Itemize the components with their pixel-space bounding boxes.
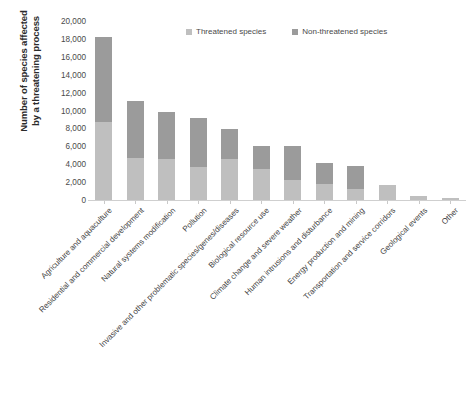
bar-group[interactable] [316, 163, 333, 201]
bar-segment-non-threatened[interactable] [221, 129, 238, 159]
bar-segment-threatened[interactable] [127, 158, 144, 201]
y-tick-label: 8,000 [40, 125, 86, 133]
bar-group[interactable] [190, 118, 207, 201]
legend-item[interactable]: Threatened species [186, 27, 266, 36]
bar-segment-threatened[interactable] [284, 180, 301, 201]
bar-segment-threatened[interactable] [221, 159, 238, 201]
y-tick-label: 0 [40, 197, 86, 205]
bar-segment-threatened[interactable] [253, 169, 270, 201]
bar-group[interactable] [158, 112, 175, 201]
y-tick-label: 10,000 [40, 107, 86, 115]
y-tick-label: 6,000 [40, 143, 86, 151]
bar-group[interactable] [221, 129, 238, 201]
x-category-label: Energy production and mining [285, 206, 366, 287]
x-category-label: Other [440, 206, 460, 226]
bar-segment-non-threatened[interactable] [347, 166, 364, 189]
bar-segment-threatened[interactable] [379, 185, 396, 201]
legend-swatch-icon [186, 29, 192, 35]
bar-group[interactable] [379, 185, 396, 201]
x-axis-tick [104, 201, 105, 204]
y-axis-title-line-1: Number of species affected [18, 10, 30, 131]
bar-segment-threatened[interactable] [95, 122, 112, 201]
legend-item[interactable]: Non-threatened species [292, 27, 387, 36]
x-axis-tick [198, 201, 199, 204]
bar-segment-non-threatened[interactable] [284, 146, 301, 179]
x-axis-tick [324, 201, 325, 204]
legend-label: Non-threatened species [302, 27, 387, 36]
bar-group[interactable] [95, 37, 112, 201]
x-category-label: Geological events [378, 206, 429, 257]
bar-segment-threatened[interactable] [158, 159, 175, 201]
x-category-label: Residential and commercial development [38, 206, 146, 314]
x-axis-tick [450, 201, 451, 204]
x-category-label: Invasive and other problematic species/g… [97, 206, 240, 349]
plot-area [88, 22, 466, 201]
x-axis-tick [261, 201, 262, 204]
legend-swatch-icon [292, 29, 298, 35]
bar-group[interactable] [347, 166, 364, 201]
x-axis-tick [230, 201, 231, 204]
chart-legend: Threatened speciesNon-threatened species [186, 27, 387, 36]
y-tick-label: 14,000 [40, 72, 86, 80]
x-category-label: Pollution [181, 206, 209, 234]
bar-segment-non-threatened[interactable] [253, 146, 270, 169]
bar-segment-threatened[interactable] [316, 184, 333, 201]
bar-segment-non-threatened[interactable] [95, 37, 112, 122]
stacked-bar-chart: Number of species affected by a threaten… [0, 0, 473, 398]
x-axis-line [88, 200, 466, 201]
bar-series-container [88, 22, 466, 201]
legend-label: Threatened species [196, 27, 266, 36]
y-tick-label: 12,000 [40, 89, 86, 97]
y-tick-label: 16,000 [40, 54, 86, 62]
y-tick-label: 2,000 [40, 179, 86, 187]
bar-segment-threatened[interactable] [190, 167, 207, 201]
x-category-label: Agriculture and aquaculture [39, 206, 114, 281]
x-axis-tick [356, 201, 357, 204]
x-axis-tick [387, 201, 388, 204]
y-tick-label: 18,000 [40, 36, 86, 44]
x-axis-tick [135, 201, 136, 204]
bar-segment-non-threatened[interactable] [316, 163, 333, 184]
x-category-label: Biological resource use [207, 206, 271, 270]
x-category-label: Climate change and severe weather [208, 206, 304, 302]
x-axis-tick [419, 201, 420, 204]
bar-segment-non-threatened[interactable] [158, 112, 175, 159]
x-category-label: Human intrusions and disturbance [243, 206, 334, 297]
x-axis-tick [167, 201, 168, 204]
x-category-label: Transportation and service corridors [302, 206, 397, 301]
bar-segment-non-threatened[interactable] [127, 101, 144, 158]
bar-group[interactable] [253, 146, 270, 201]
x-category-label: Natural systems modification [99, 206, 177, 284]
x-axis-tick [293, 201, 294, 204]
bar-group[interactable] [284, 146, 301, 201]
y-tick-label: 20,000 [40, 18, 86, 26]
bar-segment-non-threatened[interactable] [190, 118, 207, 167]
y-axis-tick-labels: 02,0004,0006,0008,00010,00012,00014,0001… [40, 0, 86, 201]
y-tick-label: 4,000 [40, 161, 86, 169]
bar-group[interactable] [127, 101, 144, 201]
